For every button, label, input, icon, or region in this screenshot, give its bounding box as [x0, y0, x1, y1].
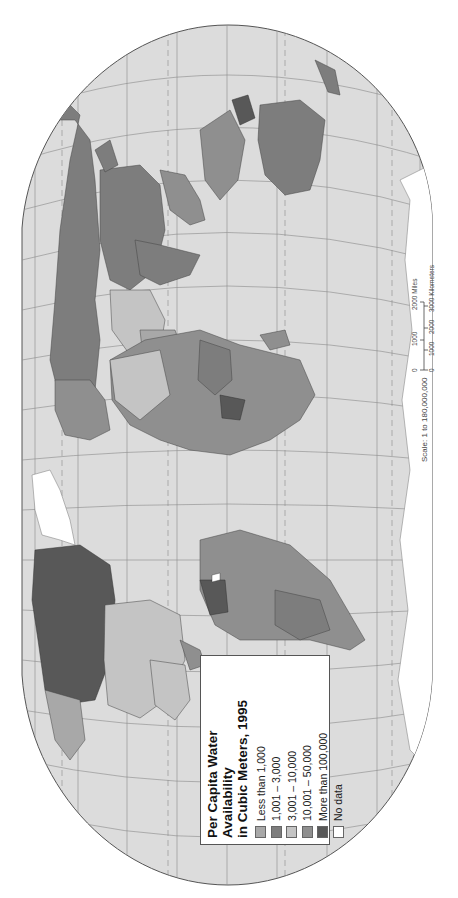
- scale-km-0: 0: [428, 368, 435, 372]
- map-scale: Scale: 1 to 180,000,000 0 1000 2000 Mile…: [412, 232, 436, 462]
- legend-label: Less than 1,000: [255, 746, 267, 821]
- scale-km-2000: 2000: [428, 320, 435, 334]
- legend-item-3001-10000: 3,001 – 10,000: [284, 662, 300, 838]
- legend: Per Capita Water Availability in Cubic M…: [200, 655, 330, 845]
- legend-title-line-1: Per Capita Water Availability: [205, 662, 235, 838]
- scale-miles-1000: 1000: [411, 332, 418, 346]
- legend-item-10001-50000: 10,001 – 50,000: [300, 662, 316, 838]
- legend-swatch: [302, 826, 313, 838]
- legend-item-1001-3000: 1,001 – 3,000: [269, 662, 285, 838]
- legend-swatch: [286, 826, 297, 838]
- scale-km-3000: 3000 Kilometers: [428, 265, 435, 312]
- legend-item-less-than-1000: Less than 1,000: [253, 662, 269, 838]
- legend-label: 10,001 – 50,000: [301, 745, 313, 821]
- legend-swatch: [255, 826, 266, 838]
- legend-swatch: [333, 826, 344, 838]
- scale-km-1000: 1000: [428, 342, 435, 356]
- legend-title-line-2: in Cubic Meters, 1995: [235, 662, 250, 838]
- scale-ratio: Scale: 1 to 180,000,000: [420, 377, 429, 462]
- scale-miles-2000: 2000 Miles: [411, 279, 418, 310]
- legend-label: No data: [332, 784, 344, 821]
- legend-item-no-data: No data: [331, 662, 347, 838]
- legend-swatch: [271, 826, 282, 838]
- scale-miles-0: 0: [411, 368, 418, 372]
- legend-swatch: [317, 826, 328, 838]
- legend-title: Per Capita Water Availability in Cubic M…: [205, 662, 250, 838]
- legend-item-more-than-100000: More than 100,000: [315, 662, 331, 838]
- legend-label: 3,001 – 10,000: [286, 751, 298, 821]
- legend-label: 1,001 – 3,000: [270, 757, 282, 821]
- legend-label: More than 100,000: [317, 733, 329, 821]
